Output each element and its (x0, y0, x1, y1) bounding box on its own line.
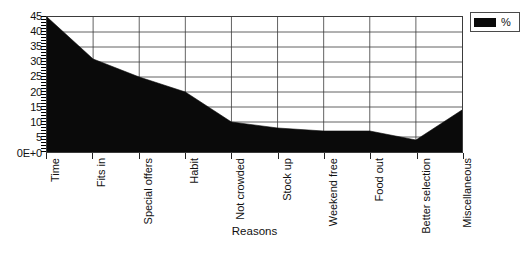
y-axis-tick-label: 35 (0, 41, 42, 52)
x-axis-category-text: Time (50, 158, 61, 182)
percent-series-swatch (474, 18, 496, 27)
x-axis-category-text: Miscellaneous (462, 158, 473, 228)
y-axis-tick-label: 15 (0, 102, 42, 113)
x-axis-category-label: Weekend free (328, 158, 339, 226)
x-axis-category-text: Special offers (143, 158, 154, 224)
x-axis-category-label: Not crowded (235, 158, 246, 220)
x-axis-category-text: Weekend free (328, 158, 339, 226)
area-chart: 0E+051015202530354045 TimeFits inSpecial… (0, 0, 527, 256)
x-axis-category-label: Food out (374, 158, 385, 201)
x-axis-category-label: Time (50, 158, 61, 182)
x-axis-category-label: Special offers (143, 158, 154, 224)
y-axis-tick-label: 0E+0 (0, 148, 42, 159)
x-axis-category-text: Fits in (96, 158, 107, 187)
y-axis-tick-label: 20 (0, 87, 42, 98)
x-axis-category-label: Miscellaneous (462, 158, 473, 228)
y-axis-tick-label: 45 (0, 11, 42, 22)
x-axis-title: Reasons (46, 225, 463, 237)
plot-area (46, 16, 463, 153)
x-axis-category-text: Stock up (282, 158, 293, 201)
y-axis-tick-label: 30 (0, 56, 42, 67)
y-axis-tick-label: 25 (0, 71, 42, 82)
x-axis-category-label: Better selection (421, 158, 432, 234)
y-axis-tick-label: 5 (0, 132, 42, 143)
percent-series-area (47, 17, 462, 152)
legend-item-label: % (496, 17, 516, 28)
x-axis-category-text: Food out (374, 158, 385, 201)
y-axis-tick-label: 40 (0, 26, 42, 37)
x-axis-category-label: Habit (189, 158, 200, 184)
x-axis-category-text: Not crowded (235, 158, 246, 220)
x-axis-category-text: Better selection (421, 158, 432, 234)
x-axis-category-label: Fits in (96, 158, 107, 187)
plot-svg (47, 17, 462, 152)
x-axis-category-labels: TimeFits inSpecial offersHabitNot crowde… (46, 158, 463, 228)
chart-legend: % (470, 12, 520, 32)
x-axis-category-label: Stock up (282, 158, 293, 201)
y-axis-tick-labels: 0E+051015202530354045 (0, 8, 42, 158)
y-axis-tick-label: 10 (0, 117, 42, 128)
x-axis-category-text: Habit (189, 158, 200, 184)
